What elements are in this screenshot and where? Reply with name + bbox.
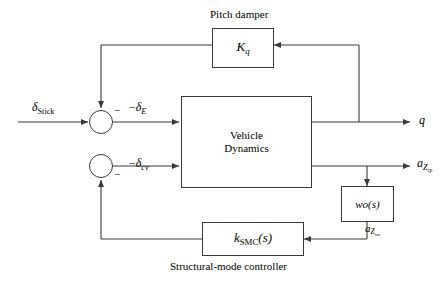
summing-junction-structural-sign: − <box>114 168 120 180</box>
signal-label-q: q <box>419 114 425 127</box>
pitch-damper-caption: Pitch damper <box>210 8 268 20</box>
washout-filter-block[interactable]: wo(s) <box>341 186 394 222</box>
pitch-damper-label: Kq <box>236 40 249 56</box>
summing-junction-pitch[interactable] <box>89 110 113 134</box>
structural-mode-controller-caption: Structural-mode controller <box>170 260 287 272</box>
signal-label-az-wo: aZwo <box>365 222 380 238</box>
vehicle-dynamics-block[interactable]: VehicleDynamics <box>181 96 312 188</box>
signal-label-delta-cv: −δcv <box>129 157 149 173</box>
pitch-damper-block[interactable]: Kq <box>212 28 274 68</box>
signal-label-stick: δStick <box>32 101 54 117</box>
vehicle-dynamics-label: VehicleDynamics <box>224 129 269 154</box>
summing-junction-pitch-sign: − <box>114 104 120 116</box>
washout-filter-label: wo(s) <box>355 198 379 211</box>
signal-label-delta-e: −δE <box>129 101 146 117</box>
smc-label: kSMC(s) <box>234 231 272 247</box>
structural-mode-controller-block[interactable]: kSMC(s) <box>202 222 304 256</box>
summing-junction-structural[interactable] <box>89 154 113 178</box>
signal-label-az-cp: aZcp <box>417 157 432 173</box>
block-diagram-canvas: Pitch damper Structural-mode controller … <box>0 0 445 282</box>
